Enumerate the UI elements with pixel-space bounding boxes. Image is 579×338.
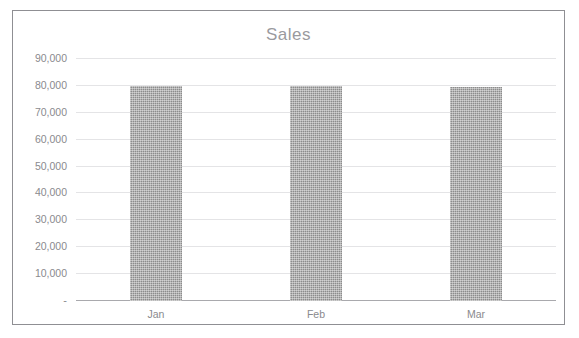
plot-area: 90,00080,00070,00060,00050,00040,00030,0… [76,59,556,301]
bar-slot: Mar [396,59,556,301]
y-axis-tick-label: 70,000 [35,106,67,118]
y-axis-tick-label: 30,000 [35,213,67,225]
x-axis-tick-label: Feb [307,308,325,320]
y-axis-tick-label: - [63,294,67,306]
chart-frame: Sales 90,00080,00070,00060,00050,00040,0… [12,10,565,325]
bar-slot: Feb [236,59,396,301]
bar[interactable] [290,86,342,301]
y-axis-tick-label: 80,000 [35,79,67,91]
y-axis-tick-label: 40,000 [35,186,67,198]
y-axis-tick-label: 60,000 [35,133,67,145]
x-axis-tick-label: Mar [467,308,485,320]
y-axis-tick-label: 50,000 [35,160,67,172]
x-axis-tick-label: Jan [148,308,165,320]
bar[interactable] [130,86,182,301]
y-axis-tick-label: 20,000 [35,240,67,252]
y-axis-tick-label: 10,000 [35,267,67,279]
y-axis-tick-label: 90,000 [35,52,67,64]
bar-slot: Jan [76,59,236,301]
bar-series: JanFebMar [76,59,556,301]
chart-title: Sales [13,25,564,45]
bar[interactable] [450,87,502,301]
